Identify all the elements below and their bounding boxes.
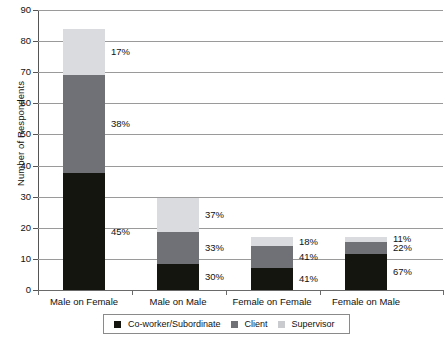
- bar-percent-label: 18%: [299, 237, 318, 247]
- y-axis-line: [38, 10, 39, 290]
- bar-male-on-female[interactable]: [63, 10, 105, 290]
- bar-percent-label: 37%: [205, 210, 224, 220]
- y-axis-tick-label: 40: [7, 161, 31, 171]
- y-axis-tick: [33, 166, 38, 167]
- y-axis-tick-label: 70: [7, 67, 31, 77]
- bar-segment-sup[interactable]: [345, 237, 387, 242]
- x-axis-tick: [443, 290, 444, 295]
- bar-percent-label: 67%: [393, 267, 412, 277]
- y-axis-tick-label: 50: [7, 129, 31, 139]
- y-axis-tick: [33, 10, 38, 11]
- bar-percent-label: 11%: [393, 234, 411, 244]
- bar-percent-label: 38%: [111, 119, 130, 129]
- bar-segment-cow[interactable]: [63, 173, 105, 290]
- bar-percent-label: 30%: [205, 272, 224, 282]
- bar-segment-cow[interactable]: [251, 268, 293, 290]
- plot-area: 908070605040302010045%38%17%30%33%37%41%…: [38, 10, 443, 290]
- legend-item[interactable]: Co-worker/Subordinate: [114, 319, 221, 329]
- legend-label: Client: [245, 319, 268, 329]
- bar-percent-label: 45%: [111, 227, 130, 237]
- bar-segment-cli[interactable]: [63, 75, 105, 173]
- bar-segment-sup[interactable]: [251, 237, 293, 246]
- y-axis-tick-label: 60: [7, 98, 31, 108]
- y-axis-tick-label: 30: [7, 192, 31, 202]
- bar-segment-sup[interactable]: [157, 198, 199, 232]
- x-axis-label: Female on Male: [306, 296, 426, 307]
- bar-percent-label: 33%: [205, 243, 224, 253]
- y-axis-tick: [33, 134, 38, 135]
- x-axis-tick: [226, 290, 227, 295]
- y-axis-tick: [33, 197, 38, 198]
- bar-percent-label: 17%: [111, 47, 130, 57]
- bar-segment-cli[interactable]: [251, 246, 293, 268]
- y-axis-tick-label: 80: [7, 36, 31, 46]
- x-axis-tick: [132, 290, 133, 295]
- legend-swatch-icon: [114, 321, 121, 328]
- y-axis-tick-label: 20: [7, 223, 31, 233]
- bar-female-on-female[interactable]: [251, 10, 293, 290]
- bar-percent-label: 41%: [299, 274, 318, 284]
- bar-segment-cli[interactable]: [157, 232, 199, 263]
- bar-segment-sup[interactable]: [63, 29, 105, 76]
- y-axis-tick: [33, 228, 38, 229]
- bar-segment-cow[interactable]: [345, 254, 387, 290]
- y-axis-tick-label: 90: [7, 5, 31, 15]
- legend-item[interactable]: Client: [231, 319, 268, 329]
- legend-label: Co-worker/Subordinate: [128, 319, 221, 329]
- legend-swatch-icon: [278, 321, 285, 328]
- y-axis-tick-label: 10: [7, 254, 31, 264]
- legend-item[interactable]: Supervisor: [278, 319, 335, 329]
- y-axis-tick: [33, 41, 38, 42]
- x-axis-tick: [38, 290, 39, 295]
- bar-segment-cli[interactable]: [345, 242, 387, 254]
- legend-swatch-icon: [231, 321, 238, 328]
- bar-male-on-male[interactable]: [157, 10, 199, 290]
- bar-female-on-male[interactable]: [345, 10, 387, 290]
- bar-percent-label: 41%: [299, 252, 318, 262]
- legend-label: Supervisor: [292, 319, 335, 329]
- x-axis-line: [38, 290, 443, 291]
- y-axis-tick-label: 0: [7, 285, 31, 295]
- bar-percent-label: 22%: [393, 243, 412, 253]
- chart-legend: Co-worker/SubordinateClientSupervisor: [103, 314, 350, 334]
- y-axis-tick: [33, 103, 38, 104]
- x-axis-tick: [320, 290, 321, 295]
- bar-segment-cow[interactable]: [157, 264, 199, 290]
- chart-container: Number of Respondents 908070605040302010…: [0, 0, 446, 341]
- y-axis-tick: [33, 259, 38, 260]
- y-axis-tick: [33, 72, 38, 73]
